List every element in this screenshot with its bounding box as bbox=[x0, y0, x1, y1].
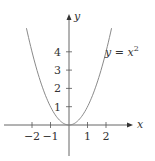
x-axis-label: x bbox=[137, 118, 144, 131]
curve-label: y = x2 bbox=[104, 44, 139, 59]
y-axis-label: y bbox=[73, 10, 81, 23]
x-tick-label: −1 bbox=[42, 130, 58, 143]
y-axis-arrow-icon bbox=[67, 14, 72, 20]
y-tick-label: 4 bbox=[54, 46, 61, 59]
x-axis-arrow-icon bbox=[127, 123, 133, 128]
x-tick-label: 1 bbox=[84, 130, 91, 143]
curve-label-exponent: 2 bbox=[134, 44, 139, 53]
parabola-chart: −2−112 1234 x y y = x2 bbox=[0, 0, 155, 161]
y-tick-label: 1 bbox=[54, 101, 61, 114]
x-tick-label: 2 bbox=[103, 130, 110, 143]
curve-label-main: y = x bbox=[104, 46, 134, 59]
y-tick-label: 2 bbox=[54, 82, 61, 95]
x-tick-label: −2 bbox=[24, 130, 40, 143]
y-tick-label: 3 bbox=[54, 64, 61, 77]
